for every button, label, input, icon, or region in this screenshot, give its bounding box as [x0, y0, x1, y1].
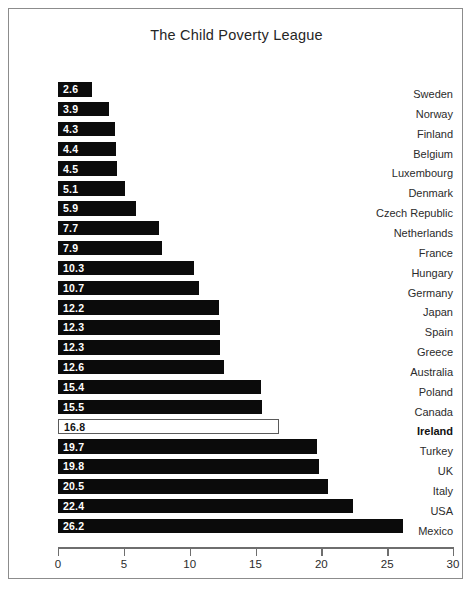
bar-value-label: 3.9 — [63, 104, 78, 115]
bar-value-label: 12.3 — [63, 322, 84, 333]
bar-value-label: 7.9 — [63, 243, 78, 254]
bar-ireland: 16.8 — [58, 419, 279, 434]
category-label-spain: Spain — [313, 326, 453, 338]
x-tick — [387, 547, 388, 556]
bar-netherlands: 7.7 — [58, 221, 159, 236]
bar-value-label: 26.2 — [63, 521, 84, 532]
bar-australia: 12.6 — [58, 360, 224, 375]
bar-czech-republic: 5.9 — [58, 201, 136, 216]
category-label-turkey: Turkey — [313, 445, 453, 457]
bar-value-label: 2.6 — [63, 84, 78, 95]
bar-plot-area: 2.6Sweden3.9Norway4.3Finland4.4Belgium4.… — [58, 81, 453, 536]
bar-value-label: 4.5 — [63, 163, 78, 174]
x-tick-label: 5 — [104, 558, 144, 570]
x-tick-label: 0 — [38, 558, 78, 570]
bar-row: 2.6Sweden — [58, 81, 453, 101]
category-label-canada: Canada — [313, 406, 453, 418]
x-tick-label: 10 — [170, 558, 210, 570]
category-label-greece: Greece — [313, 346, 453, 358]
bar-row: 5.9Czech Republic — [58, 200, 453, 220]
bar-japan: 12.2 — [58, 300, 219, 315]
bar-row: 3.9Norway — [58, 101, 453, 121]
category-label-uk: UK — [313, 465, 453, 477]
bar-row: 22.4USA — [58, 498, 453, 518]
bar-value-label: 5.9 — [63, 203, 78, 214]
bar-value-label: 10.7 — [63, 283, 84, 294]
chart-frame: The Child Poverty League 2.6Sweden3.9Nor… — [8, 8, 463, 579]
bar-denmark: 5.1 — [58, 181, 125, 196]
bar-row: 16.8Ireland — [58, 418, 453, 438]
bar-value-label: 4.3 — [63, 124, 78, 135]
bar-row: 26.2Mexico — [58, 518, 453, 538]
bar-usa: 22.4 — [58, 499, 353, 514]
category-label-luxembourg: Luxembourg — [313, 167, 453, 179]
category-label-germany: Germany — [313, 287, 453, 299]
bar-value-label: 15.5 — [63, 402, 84, 413]
category-label-belgium: Belgium — [313, 148, 453, 160]
x-tick — [256, 547, 257, 556]
category-label-france: France — [313, 247, 453, 259]
bar-row: 4.3Finland — [58, 121, 453, 141]
bar-row: 7.9France — [58, 240, 453, 260]
category-label-italy: Italy — [313, 485, 453, 497]
bar-hungary: 10.3 — [58, 261, 194, 276]
x-tick-label: 30 — [433, 558, 471, 570]
bar-value-label: 5.1 — [63, 183, 78, 194]
x-tick — [453, 547, 454, 556]
bar-row: 10.3Hungary — [58, 260, 453, 280]
bar-france: 7.9 — [58, 241, 162, 256]
bar-norway: 3.9 — [58, 102, 109, 117]
x-tick — [190, 547, 191, 556]
bar-turkey: 19.7 — [58, 439, 317, 454]
x-tick-label: 20 — [301, 558, 341, 570]
bar-value-label: 22.4 — [63, 501, 84, 512]
bar-poland: 15.4 — [58, 380, 261, 395]
category-label-mexico: Mexico — [313, 525, 453, 537]
bar-value-label: 12.2 — [63, 302, 84, 313]
category-label-sweden: Sweden — [313, 88, 453, 100]
bar-row: 12.3Spain — [58, 319, 453, 339]
bar-value-label: 12.3 — [63, 342, 84, 353]
category-label-australia: Australia — [313, 366, 453, 378]
bar-row: 12.6Australia — [58, 359, 453, 379]
bar-row: 19.8UK — [58, 458, 453, 478]
bar-luxembourg: 4.5 — [58, 161, 117, 176]
bar-canada: 15.5 — [58, 400, 262, 415]
bar-row: 10.7Germany — [58, 280, 453, 300]
bar-finland: 4.3 — [58, 122, 115, 137]
category-label-denmark: Denmark — [313, 187, 453, 199]
category-label-poland: Poland — [313, 386, 453, 398]
bar-italy: 20.5 — [58, 479, 328, 494]
x-tick-label: 15 — [236, 558, 276, 570]
bar-row: 12.2Japan — [58, 299, 453, 319]
x-tick-label: 25 — [367, 558, 407, 570]
bar-row: 7.7Netherlands — [58, 220, 453, 240]
category-label-hungary: Hungary — [313, 267, 453, 279]
bar-value-label: 4.4 — [63, 144, 78, 155]
bar-sweden: 2.6 — [58, 82, 92, 97]
x-tick — [124, 547, 125, 556]
bar-value-label: 16.8 — [64, 421, 85, 432]
bar-belgium: 4.4 — [58, 142, 116, 157]
bar-greece: 12.3 — [58, 340, 220, 355]
category-label-norway: Norway — [313, 108, 453, 120]
bar-row: 5.1Denmark — [58, 180, 453, 200]
bar-spain: 12.3 — [58, 320, 220, 335]
category-label-ireland: Ireland — [313, 425, 453, 437]
bar-value-label: 10.3 — [63, 263, 84, 274]
x-tick — [321, 547, 322, 556]
bar-row: 4.5Luxembourg — [58, 160, 453, 180]
category-label-czech-republic: Czech Republic — [313, 207, 453, 219]
bar-row: 4.4Belgium — [58, 141, 453, 161]
bar-row: 20.5Italy — [58, 478, 453, 498]
bar-value-label: 19.7 — [63, 441, 84, 452]
category-label-finland: Finland — [313, 128, 453, 140]
bar-row: 15.4Poland — [58, 379, 453, 399]
category-label-usa: USA — [313, 505, 453, 517]
bar-row: 19.7Turkey — [58, 438, 453, 458]
bar-value-label: 19.8 — [63, 461, 84, 472]
bar-row: 12.3Greece — [58, 339, 453, 359]
bar-germany: 10.7 — [58, 281, 199, 296]
bar-value-label: 15.4 — [63, 382, 84, 393]
bar-value-label: 20.5 — [63, 481, 84, 492]
